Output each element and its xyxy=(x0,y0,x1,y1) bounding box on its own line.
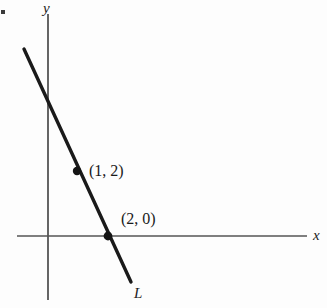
point-label-1-2: (1, 2) xyxy=(89,163,124,179)
line-name-label: L xyxy=(134,286,142,301)
coordinate-plane xyxy=(0,0,327,308)
point-marker-1-2 xyxy=(73,167,81,175)
graph-figure: y x (1, 2) (2, 0) L xyxy=(0,0,327,308)
point-label-2-0: (2, 0) xyxy=(121,211,156,227)
x-axis-label: x xyxy=(313,228,320,243)
point-marker-2-0 xyxy=(104,232,113,241)
y-axis-label: y xyxy=(43,1,50,16)
